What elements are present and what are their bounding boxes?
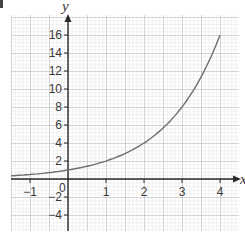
grid — [11, 15, 239, 231]
origin-label: 0 — [59, 181, 66, 195]
x-tick-label: 2 — [141, 185, 148, 199]
y-tick-label: −4 — [48, 208, 62, 222]
y-tick-label: 6 — [55, 118, 62, 132]
chart-plot: −11234161412108642−2−4 y x 0 — [0, 0, 245, 232]
y-axis-label: y — [60, 0, 69, 14]
x-axis-label: x — [239, 171, 245, 187]
y-tick-label: 12 — [49, 64, 63, 78]
x-tick-label: 4 — [217, 185, 224, 199]
y-tick-label: 14 — [49, 46, 63, 60]
y-tick-label: 16 — [49, 28, 63, 42]
x-tick-label: −1 — [23, 185, 37, 199]
x-tick-label: 1 — [103, 185, 110, 199]
y-tick-label: 4 — [55, 136, 62, 150]
y-tick-label: 8 — [55, 100, 62, 114]
x-tick-label: 3 — [179, 185, 186, 199]
y-tick-label: 2 — [55, 154, 62, 168]
y-tick-label: 10 — [49, 82, 63, 96]
